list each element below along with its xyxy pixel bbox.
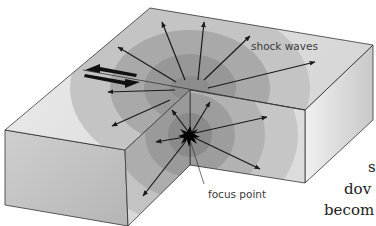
focus-point-label: focus point <box>208 188 266 200</box>
clipped-text-line-1: s <box>368 158 376 176</box>
clipped-text-line-2: dov <box>344 180 371 198</box>
shock-waves-label: shock waves <box>251 40 318 52</box>
clipped-text-line-3: becom <box>324 201 374 219</box>
